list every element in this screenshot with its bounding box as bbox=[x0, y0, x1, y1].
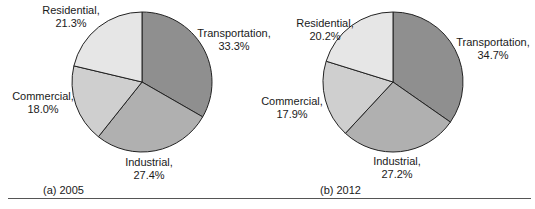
bottom-rule bbox=[8, 198, 531, 199]
label-transportation-2012: Transportation, 34.7% bbox=[452, 36, 534, 62]
label-commercial-2005: Commercial, 18.0% bbox=[10, 90, 76, 116]
label-industrial-2012: Industrial, 27.2% bbox=[367, 155, 427, 181]
caption-2012: (b) 2012 bbox=[320, 184, 361, 196]
label-residential-2012: Residential, 20.2% bbox=[290, 17, 360, 43]
label-commercial-2012: Commercial, 17.9% bbox=[259, 95, 325, 121]
caption-2005: (a) 2005 bbox=[43, 184, 84, 196]
label-residential-2005: Residential, 21.3% bbox=[36, 4, 106, 30]
label-industrial-2005: Industrial, 27.4% bbox=[119, 156, 179, 182]
pie-panel-2005: Residential, 21.3% Transportation, 33.3%… bbox=[0, 0, 267, 200]
pie-panel-2012: Residential, 20.2% Transportation, 34.7%… bbox=[265, 0, 535, 200]
label-transportation-2005: Transportation, 33.3% bbox=[194, 27, 274, 53]
